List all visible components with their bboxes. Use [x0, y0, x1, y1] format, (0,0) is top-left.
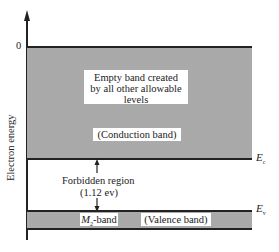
conduction-edge-label: Ec: [256, 151, 265, 165]
conduction-band-name: (Conduction band): [93, 128, 181, 141]
axis-label: Electron energy: [5, 114, 16, 181]
zero-tick-label: 0: [16, 40, 21, 51]
conduction-edge-subscript: c: [263, 159, 266, 165]
m2-band-symbol: M: [81, 214, 90, 225]
forbidden-region-gap: (1.12 ev): [80, 187, 118, 198]
vacuum-level-line: [27, 46, 252, 48]
description-line-1: Empty band created: [84, 72, 188, 83]
gap-arrow-up-icon: [93, 159, 101, 173]
description-line-3: levels: [84, 94, 188, 105]
valence-band: [27, 211, 252, 229]
axis-arrow-icon: [22, 10, 32, 22]
description-line-2: by all other allowable: [84, 83, 188, 94]
valence-edge-subscript: v: [263, 210, 266, 216]
conduction-band-edge-line: [27, 158, 252, 160]
conduction-band-description: Empty band created by all other allowabl…: [84, 70, 188, 104]
m2-band-suffix: -band: [93, 214, 117, 225]
m2-band-label: M2-band: [80, 213, 118, 226]
valence-edge-symbol: E: [256, 202, 263, 214]
forbidden-region-label: Forbidden region: [62, 175, 135, 186]
valence-band-bottom-line: [27, 228, 252, 230]
conduction-edge-symbol: E: [256, 151, 263, 163]
valence-edge-label: Ev: [256, 202, 266, 216]
valence-band-edge-line: [27, 210, 252, 212]
valence-band-name: (Valence band): [141, 213, 211, 226]
